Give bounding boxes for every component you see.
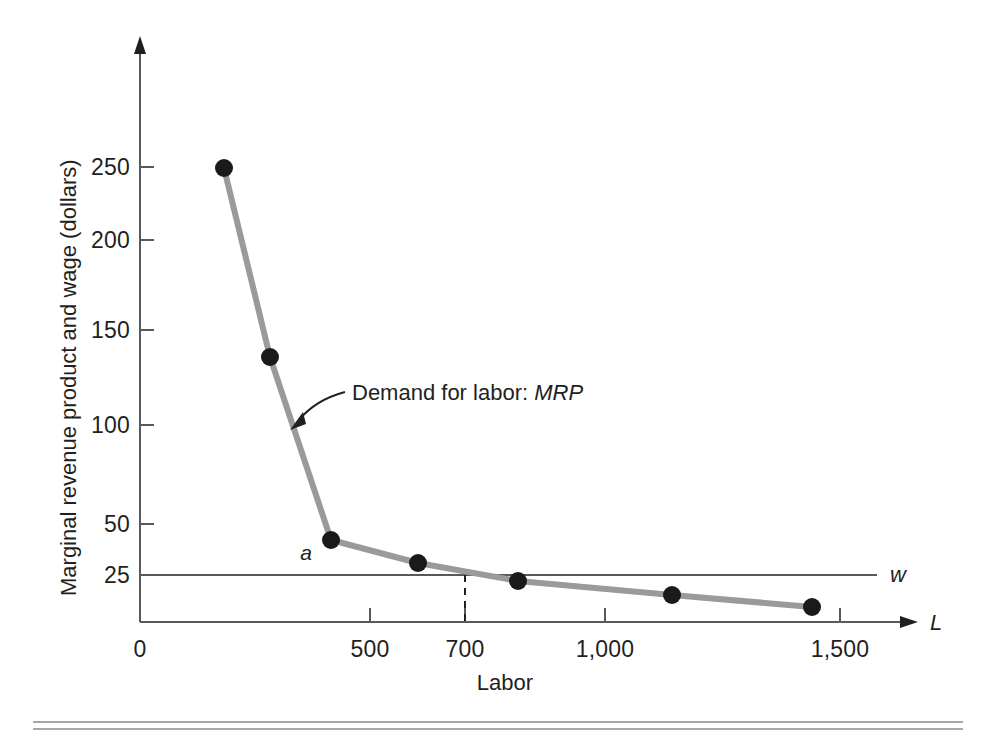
figure-container: 250 200 150 100 50 25 Marginal revenue p… [0, 0, 998, 745]
point-a-label: a [300, 541, 312, 564]
x-tick-label-1500: 1,500 [811, 636, 870, 662]
data-point [409, 554, 427, 572]
data-point [322, 531, 340, 549]
x-axis-arrowhead [900, 616, 918, 628]
data-point [261, 348, 279, 366]
x-tick-label-0: 0 [134, 636, 147, 662]
x-tick-label-500: 500 [351, 636, 390, 662]
demand-curve-annotation: Demand for labor: MRP [290, 380, 583, 430]
y-tick-label-100: 100 [91, 412, 130, 438]
data-point [803, 598, 821, 616]
y-tick-label-250: 250 [91, 154, 130, 180]
data-point [509, 572, 527, 590]
x-axis-group: 0 500 700 1,000 1,500 L Labor [134, 608, 943, 695]
y-axis-arrowhead [134, 36, 146, 54]
data-point [215, 159, 233, 177]
y-tick-label-200: 200 [91, 227, 130, 253]
annotation-mrp-text: MRP [534, 380, 583, 405]
y-tick-label-150: 150 [91, 317, 130, 343]
annotation-prefix-text: Demand for labor: [352, 380, 534, 405]
mrp-labor-demand-chart: 250 200 150 100 50 25 Marginal revenue p… [0, 0, 998, 745]
y-tick-label-50: 50 [104, 511, 130, 537]
x-axis-title: Labor [477, 670, 533, 695]
wage-line-label: w [890, 562, 908, 587]
y-axis-group: 250 200 150 100 50 25 Marginal revenue p… [56, 36, 154, 622]
bottom-divider [33, 722, 963, 729]
annotation-label: Demand for labor: MRP [352, 380, 583, 405]
x-tick-label-700: 700 [446, 636, 485, 662]
annotation-leader-line [299, 392, 345, 420]
x-tick-label-1000: 1,000 [576, 636, 635, 662]
y-tick-label-25: 25 [104, 562, 130, 588]
data-point [663, 586, 681, 604]
y-axis-title: Marginal revenue product and wage (dolla… [56, 159, 81, 596]
x-axis-symbol-label: L [930, 610, 942, 635]
